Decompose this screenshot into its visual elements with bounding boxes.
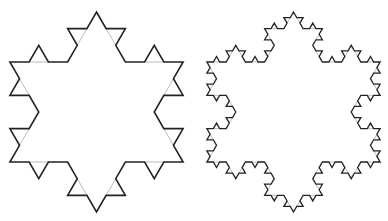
- previous-iteration-guide-line: [229, 51, 232, 57]
- snowflake-outline: [207, 12, 380, 212]
- previous-iteration-guide-line: [345, 168, 348, 174]
- koch-snowflake-figure: [0, 0, 388, 221]
- previous-iteration-guide-line: [20, 129, 30, 146]
- previous-iteration-guide-line: [287, 201, 290, 207]
- previous-iteration-guide-line: [287, 18, 290, 24]
- previous-iteration-guide-line: [106, 179, 116, 196]
- koch-snowflake-iteration-3: [207, 12, 380, 212]
- previous-iteration-guide-line: [106, 29, 116, 46]
- previous-iteration-guide-line: [374, 151, 377, 157]
- previous-iteration-guide-line: [374, 68, 377, 74]
- previous-iteration-guide-line: [210, 84, 213, 90]
- previous-iteration-guide-line: [316, 184, 319, 190]
- previous-iteration-guide-line: [210, 68, 213, 74]
- previous-iteration-guide-line: [229, 168, 232, 174]
- previous-iteration-guide-line: [77, 179, 87, 196]
- previous-iteration-guide-line: [345, 51, 348, 57]
- koch-snowflake-iteration-2: [10, 12, 183, 212]
- previous-iteration-guide-line: [316, 51, 319, 57]
- previous-iteration-guide-line: [268, 34, 271, 40]
- previous-iteration-guide-line: [316, 168, 319, 174]
- previous-iteration-guide-line: [374, 84, 377, 90]
- previous-iteration-guide-line: [210, 134, 213, 140]
- previous-iteration-guide-line: [229, 101, 232, 107]
- previous-iteration-guide-line: [354, 101, 357, 107]
- previous-iteration-guide-line: [164, 79, 174, 96]
- previous-iteration-guide-line: [297, 201, 300, 207]
- previous-iteration-guide-line: [77, 29, 87, 46]
- previous-iteration-guide-line: [20, 79, 30, 96]
- previous-iteration-guide-line: [268, 184, 271, 190]
- previous-iteration-guide-line: [316, 34, 319, 40]
- previous-iteration-guide-line: [229, 118, 232, 124]
- previous-iteration-guide-line: [268, 168, 271, 174]
- previous-iteration-guide-line: [297, 18, 300, 24]
- previous-iteration-guide-line: [354, 168, 357, 174]
- previous-iteration-guide-line: [239, 51, 242, 57]
- previous-iteration-guide-line: [354, 51, 357, 57]
- previous-iteration-guide-line: [268, 51, 271, 57]
- snowflake-outline: [10, 12, 183, 212]
- previous-iteration-guide-line: [239, 168, 242, 174]
- previous-iteration-guide-line: [354, 118, 357, 124]
- previous-iteration-guide-line: [164, 129, 174, 146]
- previous-iteration-guide-line: [374, 134, 377, 140]
- previous-iteration-guide-line: [210, 151, 213, 157]
